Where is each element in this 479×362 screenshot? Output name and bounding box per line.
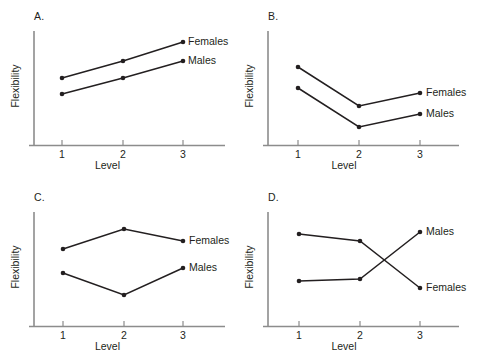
- interaction-plot-figure: A. Flexibility Level 1 2 3 Females Males…: [0, 0, 479, 362]
- data-point-females-2: [358, 239, 363, 244]
- series-label-females: Females: [426, 86, 466, 98]
- data-point-males-1: [61, 271, 66, 276]
- panel-letter-a: A.: [34, 10, 44, 22]
- x-tick-label-3: 3: [410, 148, 430, 160]
- x-tick-label-1: 1: [289, 329, 309, 341]
- chart-panel-c: C. Flexibility Level 1 2 3 Females Males: [0, 181, 239, 362]
- x-tick-label-1: 1: [288, 148, 308, 160]
- x-tick-label-2: 2: [113, 148, 133, 160]
- chart-panel-b: B. Flexibility Level 1 2 3 Females Males: [240, 0, 479, 181]
- chart-panel-a: A. Flexibility Level 1 2 3 Females Males: [0, 0, 239, 181]
- data-point-females-3: [418, 286, 423, 291]
- data-point-females-2: [357, 104, 362, 109]
- data-point-females-2: [122, 227, 127, 232]
- data-point-females-1: [297, 232, 302, 237]
- data-point-females-3: [181, 40, 186, 45]
- data-point-females-1: [296, 65, 301, 70]
- x-tick-label-1: 1: [53, 329, 73, 341]
- series-line-females: [63, 229, 183, 249]
- data-point-females-3: [181, 239, 186, 244]
- data-point-males-2: [121, 76, 126, 81]
- x-tick-label-3: 3: [173, 329, 193, 341]
- series-label-females: Females: [188, 35, 228, 47]
- chart-panel-d: D. Flexibility Level 1 2 3 Males Females: [240, 181, 479, 362]
- data-point-males-3: [418, 112, 423, 117]
- x-axis-title: Level: [240, 159, 448, 171]
- x-axis-title: Level: [0, 340, 215, 352]
- data-point-males-3: [181, 59, 186, 64]
- series-label-males: Males: [189, 261, 217, 273]
- y-axis-title: Flexibility: [9, 41, 21, 131]
- panel-letter-c: C.: [34, 191, 45, 203]
- series-line-males: [63, 268, 183, 295]
- data-point-males-1: [297, 279, 302, 284]
- x-tick-label-3: 3: [173, 148, 193, 160]
- series-label-males: Males: [426, 107, 454, 119]
- panel-letter-d: D.: [268, 191, 279, 203]
- data-point-males-2: [357, 125, 362, 130]
- data-point-females-1: [60, 76, 65, 81]
- series-label-males: Males: [188, 54, 216, 66]
- y-axis-title: Flexibility: [9, 222, 21, 312]
- x-tick-label-2: 2: [114, 329, 134, 341]
- data-point-males-1: [60, 92, 65, 97]
- data-point-males-1: [296, 86, 301, 91]
- panel-letter-b: B.: [268, 10, 278, 22]
- data-point-males-2: [122, 293, 127, 298]
- data-point-males-2: [358, 277, 363, 282]
- series-label-males: Males: [426, 225, 454, 237]
- x-tick-label-3: 3: [410, 329, 430, 341]
- y-axis-title: Flexibility: [243, 222, 255, 312]
- x-axis-title: Level: [0, 159, 215, 171]
- data-point-males-3: [418, 230, 423, 235]
- data-point-females-1: [61, 247, 66, 252]
- data-point-females-3: [418, 91, 423, 96]
- y-axis-title: Flexibility: [243, 41, 255, 131]
- x-tick-label-2: 2: [350, 329, 370, 341]
- data-point-females-2: [121, 59, 126, 64]
- x-tick-label-1: 1: [52, 148, 72, 160]
- series-label-females: Females: [426, 281, 466, 293]
- series-label-females: Females: [189, 234, 229, 246]
- x-tick-label-2: 2: [349, 148, 369, 160]
- x-axis-title: Level: [240, 340, 448, 352]
- data-point-males-3: [181, 266, 186, 271]
